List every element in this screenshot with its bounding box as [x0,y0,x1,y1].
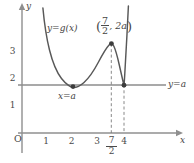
origin-label: O [14,134,22,144]
x-tick-label-seven-halves: 7 2 [106,136,117,157]
graph-figure: y x O y=g(x) (72, 2a) x=a y=a 1 2 3 4 7 … [0,0,194,163]
y-coordinate: 2a [115,20,127,31]
point-coordinate-label: (72, 2a) [96,16,132,37]
cusp-point-marker [122,83,127,88]
y-tick-label-2: 2 [8,74,17,83]
y-tick-label-3: 3 [8,47,17,56]
horizontal-line-label: y=a [168,80,186,89]
x-axis-label: x [180,136,185,145]
x-tick-label-1: 1 [42,137,51,146]
y-tick-label-1: 1 [8,101,17,110]
local-maximum-point-marker [109,41,114,46]
minimum-point-marker [71,84,76,89]
x-tick-label-3: 3 [93,137,102,146]
x-coordinate-fraction: 72 [101,16,109,37]
fraction-denominator: 2 [101,26,109,36]
curve-label: y=g(x) [47,24,78,33]
x-tick-label-2: 2 [67,137,76,146]
y-axis-arrow [19,3,25,10]
close-paren: ) [127,19,132,34]
x-tick-fraction-denominator: 2 [106,147,117,157]
minimum-point-label: x=a [58,92,76,101]
y-axis-label: y [26,2,31,11]
x-tick-label-4: 4 [120,137,129,146]
coordinate-comma: , [109,20,112,31]
